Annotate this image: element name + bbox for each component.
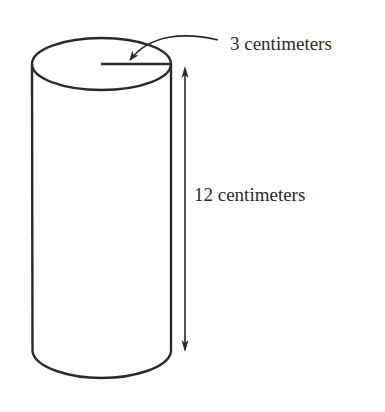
cylinder-diagram: 3 centimeters 12 centimeters: [0, 0, 385, 412]
radius-label: 3 centimeters: [230, 33, 332, 54]
diagram-canvas: 3 centimeters 12 centimeters: [0, 0, 385, 412]
cylinder-bottom-arc: [33, 352, 172, 378]
height-label: 12 centimeters: [194, 184, 305, 205]
radius-leader-arrow: [130, 36, 218, 60]
cylinder-left-side: [32, 64, 33, 352]
